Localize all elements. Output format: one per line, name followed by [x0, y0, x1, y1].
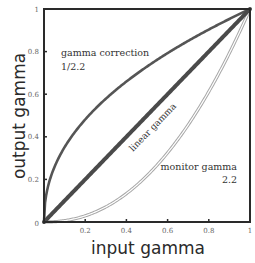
x-tick-label: 0.4: [121, 227, 133, 235]
x-axis-label: input gamma: [91, 238, 205, 258]
y-tick-label: 0.2: [28, 176, 39, 184]
x-tick-label: 0.2: [80, 227, 91, 235]
plot-curves: [44, 9, 250, 222]
gamma-correction-label: gamma correction: [61, 47, 149, 58]
x-tick-label: 1: [248, 227, 252, 235]
gamma-correction-value: 1/2.2: [61, 61, 85, 72]
y-tick-label: 0.6: [28, 91, 40, 99]
y-tick-label: 0.4: [28, 133, 40, 141]
x-tick-label: 0.8: [203, 227, 214, 235]
x-tick-label: 0.6: [162, 227, 174, 235]
y-tick-label: 0.8: [28, 48, 39, 56]
y-tick-label: 0: [35, 220, 39, 228]
y-tick-label: 1: [35, 6, 39, 14]
monitor-gamma-value: 2.2: [222, 174, 237, 185]
monitor-gamma-label: monitor gamma: [161, 161, 238, 172]
gamma-chart: 0.20.40.60.8100.20.40.60.81 gamma correc…: [0, 0, 255, 263]
y-axis-label: output gamma: [9, 53, 29, 179]
linear-gamma-line: [44, 9, 250, 222]
